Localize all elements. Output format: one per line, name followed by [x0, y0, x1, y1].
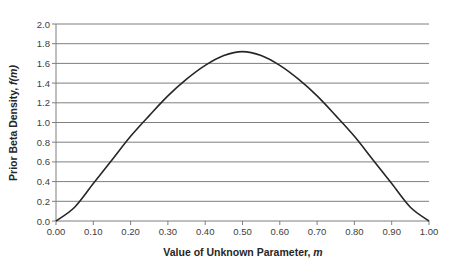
y-tick-label: 0.8	[37, 137, 50, 148]
y-tick-label: 2.0	[37, 19, 50, 30]
y-axis-ticks: 0.00.20.40.60.81.01.21.41.61.82.0	[37, 19, 56, 227]
y-tick-label: 0.0	[37, 216, 50, 227]
x-tick-label: 0.60	[271, 226, 290, 237]
y-axis-title: Prior Beta Density, f(m)	[7, 65, 19, 181]
x-tick-label: 0.00	[47, 226, 66, 237]
y-tick-label: 0.2	[37, 196, 50, 207]
x-tick-label: 0.40	[196, 226, 215, 237]
beta-density-chart: 0.00.20.40.60.81.01.21.41.61.82.0 0.000.…	[0, 0, 461, 264]
x-tick-label: 0.30	[159, 226, 178, 237]
x-tick-label: 0.70	[308, 226, 327, 237]
x-tick-label: 0.90	[382, 226, 401, 237]
y-tick-label: 0.6	[37, 156, 50, 167]
x-tick-label: 0.50	[233, 226, 252, 237]
x-axis-ticks: 0.000.100.200.300.400.500.600.700.800.90…	[47, 221, 439, 237]
x-tick-label: 0.20	[121, 226, 140, 237]
y-tick-label: 1.8	[37, 38, 50, 49]
gridlines	[56, 24, 429, 201]
y-tick-label: 1.6	[37, 58, 50, 69]
x-axis-title: Value of Unknown Parameter, m	[163, 246, 322, 258]
x-tick-label: 1.00	[420, 226, 439, 237]
x-tick-label: 0.80	[345, 226, 364, 237]
y-tick-label: 1.2	[37, 97, 50, 108]
y-tick-label: 1.4	[37, 78, 50, 89]
density-curve	[56, 52, 429, 221]
y-tick-label: 0.4	[37, 176, 50, 187]
x-tick-label: 0.10	[84, 226, 103, 237]
y-tick-label: 1.0	[37, 117, 50, 128]
